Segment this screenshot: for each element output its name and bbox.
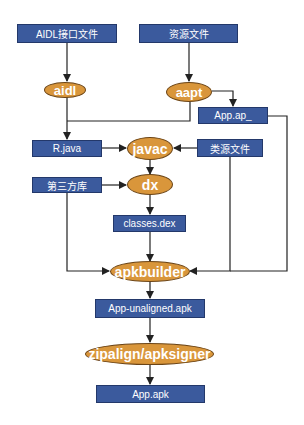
aidl-files-node: AIDL接口文件 [17, 24, 117, 43]
apkbuilder-tool-node: apkbuilder [110, 261, 190, 282]
javac-tool-node: javac [127, 137, 173, 160]
final-apk-node: App.apk [96, 385, 205, 403]
edge-aapt-rjava [67, 102, 190, 121]
third-party-lib-node: 第三方库 [32, 177, 102, 193]
r-java-node: R.java [32, 140, 102, 157]
aidl-tool-node: aidl [44, 82, 86, 98]
edge-javasrc-apkbuilder [190, 157, 230, 271]
edge-thirdparty-apkbuilder [67, 193, 109, 271]
edge-aapt-appap [212, 91, 233, 106]
app-ap-node: App.ap_ [198, 107, 268, 124]
aapt-tool-node: aapt [166, 82, 212, 102]
unaligned-apk-node: App-unaligned.apk [95, 299, 205, 318]
zipalign-apksigner-tool-node: zipalign/apksigner [85, 343, 214, 365]
java-source-node: 类源文件 [197, 139, 263, 157]
classes-dex-node: classes.dex [113, 215, 186, 232]
dx-tool-node: dx [127, 174, 173, 195]
resource-files-node: 资源文件 [139, 24, 238, 43]
